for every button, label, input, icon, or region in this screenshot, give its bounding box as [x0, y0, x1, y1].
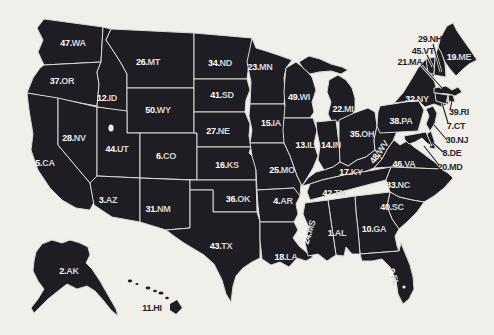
state-label-pa: 38.PA — [390, 116, 414, 126]
state-label-nd: 34.ND — [208, 58, 233, 68]
state-label-ks: 16.KS — [215, 160, 239, 170]
state-label-in: 14.IN — [321, 140, 341, 150]
state-label-ok: 36.OK — [226, 194, 251, 204]
state-label-mo: 25.MO — [269, 165, 295, 175]
state-label-wy: 50.WY — [145, 105, 171, 115]
state-label-wi: 49.WI — [288, 92, 310, 102]
state-shape-nd — [194, 33, 252, 79]
state-shape-ak — [31, 240, 118, 316]
state-label-id: 12.ID — [97, 93, 118, 103]
state-label-mt: 26.MT — [136, 57, 161, 67]
us-numbered-map-image: 1.AL2.AK3.AZ4.AR5.CA6.CO7.CT8.DE9.FL10.G… — [0, 0, 494, 335]
state-label-mn: 23.MN — [247, 62, 272, 72]
state-label-tx: 43.TX — [210, 241, 233, 251]
state-label-ar: 4.AR — [273, 196, 293, 206]
state-label-ak: 2.AK — [59, 266, 79, 276]
state-label-co: 6.CO — [156, 151, 176, 161]
state-label-al: 1.AL — [328, 228, 347, 238]
state-label-ut: 44.UT — [105, 144, 129, 154]
state-label-hi: 11.HI — [142, 303, 162, 313]
state-label-wa: 47.WA — [60, 38, 86, 48]
hawaii-big-island — [170, 300, 182, 314]
state-label-la: 18.LA — [274, 252, 298, 262]
state-label-ia: 15.IA — [261, 118, 282, 128]
state-label-de: 8.DE — [443, 148, 462, 158]
state-label-ne: 27.NE — [206, 126, 230, 136]
hawaii-island — [146, 287, 151, 290]
state-label-nc: 33.NC — [386, 180, 411, 190]
callout-line-ct — [442, 103, 448, 123]
state-label-nv: 28.NV — [62, 133, 86, 143]
state-shape-mi-upper — [299, 56, 348, 74]
state-label-md: 20.MD — [437, 162, 463, 172]
state-label-nj: 30.NJ — [446, 135, 469, 145]
state-label-ri: 39.RI — [449, 107, 469, 117]
state-label-il: 13.IL — [295, 140, 315, 150]
state-label-oh: 35.OH — [350, 129, 375, 139]
hawaii-island — [135, 283, 138, 285]
state-label-ky: 17.KY — [339, 167, 363, 177]
great-salt-lake — [108, 124, 113, 131]
state-label-nm: 31.NM — [145, 204, 170, 214]
state-label-az: 3.AZ — [99, 195, 118, 205]
us-map: 1.AL2.AK3.AZ4.AR5.CA6.CO7.CT8.DE9.FL10.G… — [0, 0, 494, 335]
state-shape-hi — [128, 280, 132, 283]
state-label-sd: 41.SD — [210, 90, 234, 100]
state-label-ca: 5.CA — [35, 158, 55, 168]
state-label-va: 46.VA — [393, 159, 417, 169]
state-label-nh: 29.NH — [418, 34, 442, 44]
lake-okeechobee — [402, 285, 405, 288]
state-label-ma: 21.MA — [397, 57, 423, 67]
state-label-ga: 10.GA — [362, 224, 387, 234]
state-label-ny: 32.NY — [405, 94, 429, 104]
state-label-ct: 7.CT — [447, 121, 466, 131]
state-label-or: 37.OR — [50, 76, 75, 86]
state-label-tn: 42.TN — [322, 188, 345, 198]
state-label-me: 19.ME — [447, 52, 472, 62]
state-label-sc: 40.SC — [380, 202, 404, 212]
hawaii-island — [153, 290, 157, 292]
hawaii-island — [165, 297, 169, 300]
state-label-vt: 45.VT — [412, 46, 435, 56]
hawaii-island — [158, 291, 163, 294]
state-label-mi: 22.MI — [332, 104, 353, 114]
